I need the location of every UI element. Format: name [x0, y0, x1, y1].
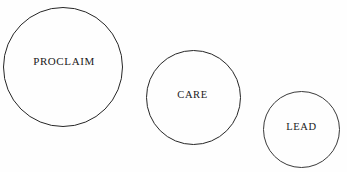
circle-proclaim-label: PROCLAIM [33, 56, 95, 67]
circle-lead[interactable]: LEAD [263, 91, 340, 168]
circle-care-label: CARE [177, 90, 207, 101]
circle-proclaim[interactable]: PROCLAIM [3, 7, 123, 127]
circle-care[interactable]: CARE [146, 50, 241, 145]
diagram-canvas: PROCLAIM CARE LEAD [0, 0, 347, 172]
circle-lead-label: LEAD [286, 122, 316, 133]
